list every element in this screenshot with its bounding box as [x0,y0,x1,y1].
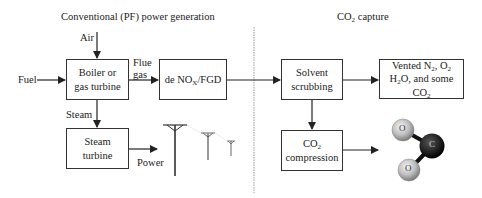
steam-label: Steam [66,109,92,121]
right-section-title: CO2 capture [337,11,389,23]
boiler-label-1: Boiler or [74,66,120,79]
vented-o: , O [435,60,448,71]
solvent-label-1: Solvent [291,66,332,79]
air-label: Air [80,32,94,44]
fuel-label: Fuel [18,74,37,86]
flue-gas-label: Flue gas [133,57,152,81]
denox-label-pre: de NO [165,74,193,85]
co2-compression-box: CO2 compression [281,130,343,171]
boiler-box: Boiler or gas turbine [66,59,129,100]
denox-fgd-box: de NOX/FGD [159,59,227,100]
compression-label-1: CO2 [285,137,338,150]
compression-co: CO [303,138,318,149]
atom-label-o1: O [399,124,406,134]
flue-label-1: Flue [133,57,152,69]
power-wire [187,125,227,141]
title-co: CO [337,11,352,22]
vented-label-2: H2O, and some CO2 [380,72,463,98]
atom-label-c: C [429,140,435,150]
steam-turbine-label-2: turbine [83,149,113,162]
power-pylon-small [227,141,235,156]
vented-label-1: Vented N2, O2 [380,59,463,72]
vented-gases-box: Vented N2, O2 H2O, and some CO2 [379,59,464,99]
steam-turbine-label-1: Steam [83,135,113,148]
solvent-label-2: scrubbing [291,80,332,93]
denox-label-post: /FGD [197,74,221,85]
steam-turbine-box: Steam turbine [66,128,129,169]
power-label: Power [137,157,164,169]
left-section-title: Conventional (PF) power generation [61,11,215,23]
compression-label-2: compression [285,151,338,164]
solvent-scrubbing-box: Solvent scrubbing [281,59,343,100]
vented-h: H [390,73,398,84]
vented-co-sub: 2 [427,92,431,100]
power-pylon-large [163,125,187,176]
power-pylon-medium [201,133,215,160]
title-capture: capture [355,11,389,22]
boiler-label-2: gas turbine [74,80,120,93]
vented-n: Vented N [392,60,431,71]
atom-label-o2: O [405,164,412,174]
flue-label-2: gas [133,69,152,81]
